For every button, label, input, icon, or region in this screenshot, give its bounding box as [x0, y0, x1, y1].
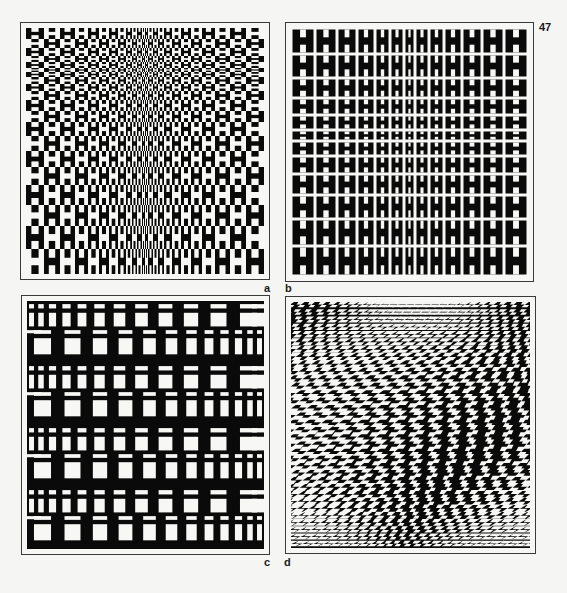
page-number: 47: [539, 22, 551, 33]
figure-a-panel: [20, 22, 270, 280]
book-page: 47 a b c d: [0, 0, 567, 593]
figure-c-label: c: [264, 557, 270, 568]
figure-c-panel: [21, 295, 270, 555]
figure-a-pattern: [26, 28, 264, 274]
figure-c-pattern: [27, 301, 264, 549]
figure-d-pattern: [291, 302, 530, 548]
figure-b-panel: [285, 22, 534, 282]
figure-d-panel: [285, 296, 536, 554]
figure-b-pattern: [291, 28, 528, 276]
figure-a-label: a: [264, 283, 270, 294]
figure-d-label: d: [284, 557, 291, 568]
figure-b-label: b: [285, 283, 292, 294]
